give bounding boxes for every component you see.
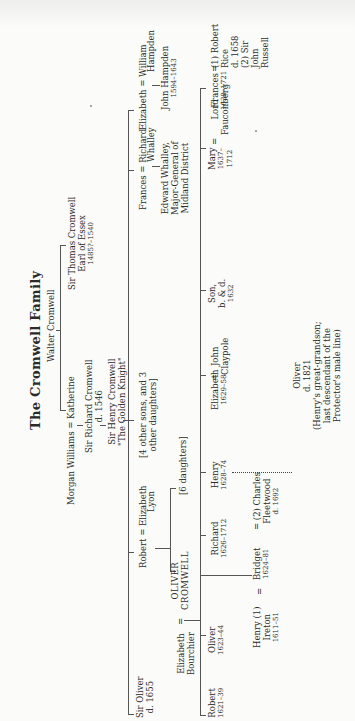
line: Major-General of [170, 141, 180, 215]
child-mary: Mary 1637– 1712 [207, 147, 234, 170]
line: (2) Sir [240, 24, 250, 68]
line: Claypole [220, 338, 230, 375]
title: Earl of Essex [77, 197, 87, 290]
connector [128, 170, 134, 171]
line: CROMWELL [180, 551, 190, 610]
name: Robert [138, 539, 148, 568]
child-richard: Richard 1626–1712 [210, 519, 229, 558]
line: John [250, 24, 260, 68]
child-son: Son, b. & d. 1632 [207, 279, 236, 308]
name: Son, [207, 279, 217, 308]
child-frances: Frances 1638–1721 [210, 71, 229, 110]
line: Elizabeth [176, 632, 186, 675]
line: = (2) Charles [252, 472, 262, 530]
name: Richard [210, 519, 220, 558]
connector [128, 420, 134, 421]
child-oliver: Oliver 1623–44 [207, 625, 226, 655]
connector [206, 575, 252, 576]
line: other daughters] [148, 372, 158, 458]
dates: 1629–58 [220, 369, 229, 410]
spouse-surname: Lyon [146, 491, 156, 512]
connector [200, 88, 206, 89]
child-henry: Henry 1628–74 [210, 460, 229, 490]
scan-speck [255, 130, 257, 132]
person-walter-cromwell: Walter Cromwell [46, 290, 56, 362]
connector [200, 375, 206, 376]
line: Edward Whalley, [160, 141, 170, 215]
name: Sir Thomas Cromwell [67, 197, 77, 290]
connector [200, 472, 206, 473]
dates: 1594–1643 [170, 46, 179, 110]
name: Sir Henry Cromwell [107, 357, 117, 446]
name: Oliver [207, 625, 217, 655]
line: Fleetwood [262, 472, 272, 530]
connector [200, 635, 206, 636]
dates: d. 1655 [145, 676, 155, 718]
equals-sign: = [255, 588, 265, 595]
note: (Henry's great-grandson; [312, 321, 322, 430]
dates: d. 1546 [94, 360, 104, 453]
name: Henry [210, 460, 220, 490]
person-edward-whalley: Edward Whalley, Major-General of Midland… [160, 141, 190, 215]
equals-sign: = [176, 618, 186, 625]
connector [128, 110, 134, 111]
line: (1) Robert [210, 24, 220, 68]
line: Bourchier [186, 632, 196, 675]
line: OLIVER [170, 551, 180, 610]
scan-edge [0, 0, 355, 28]
name: Robert [207, 688, 217, 718]
connector [128, 714, 134, 715]
name: Sir Richard Cromwell [84, 360, 94, 453]
connector [200, 715, 206, 716]
person-oliver-cromwell: OLIVER CROMWELL [170, 551, 190, 610]
spouse-surname: Whalley [146, 127, 156, 162]
line: John [210, 338, 220, 375]
name: Elizabeth [138, 89, 148, 130]
connector [100, 425, 106, 426]
dates: 1638–1721 [220, 71, 229, 110]
dates: 1637– [217, 147, 226, 170]
equals-sign: = [138, 529, 148, 536]
line: 1611–51 [272, 606, 281, 648]
dates: 1624–81 [262, 548, 271, 580]
person-katherine: Morgan Williams = Katherine [66, 376, 76, 505]
connector [128, 110, 129, 715]
connector [200, 88, 201, 716]
line: d. 1692 [272, 472, 281, 530]
equals-sign: = [138, 166, 148, 173]
person-sir-thomas-cromwell: Sir Thomas Cromwell Earl of Essex 1485?–… [67, 197, 96, 290]
connector [170, 488, 176, 489]
person-john-hampden: John Hampden 1594–1643 [160, 46, 179, 110]
connector [152, 166, 160, 167]
line: Ireton [262, 606, 272, 648]
scan-speck [90, 105, 92, 107]
dates: 1626–1712 [220, 519, 229, 558]
connector [184, 620, 200, 621]
connector [152, 85, 160, 86]
connector [60, 245, 61, 411]
page-title: The Cromwell Family [28, 271, 43, 430]
line: Midland District [180, 141, 190, 215]
connector [128, 552, 134, 553]
person-sir-oliver: Sir Oliver d. 1655 [135, 676, 155, 718]
child-bridget: Bridget 1624–81 [252, 548, 271, 580]
dates: 1712 [226, 147, 235, 170]
dates: 1485?–1540 [87, 197, 96, 290]
connector [155, 548, 171, 549]
name: Frances [210, 71, 220, 110]
name: Mary [207, 147, 217, 170]
line: [4 other sons, and 3 [138, 372, 148, 458]
dates: d. 1821 [302, 321, 312, 430]
other-siblings-note: [4 other sons, and 3 other daughters] [138, 372, 158, 458]
line: Russell [260, 24, 270, 68]
person-sir-richard-cromwell: Sir Richard Cromwell d. 1546 [84, 360, 104, 453]
note: last descendant of the [322, 321, 332, 430]
person-john-claypole: John Claypole [210, 338, 230, 375]
person-frances-spouses: (1) Robert Rice d. 1658 (2) Sir John Rus… [210, 24, 270, 68]
person-henry-ireton: Henry (1) Ireton 1611–51 [252, 606, 281, 648]
connector [200, 290, 206, 291]
connector [77, 425, 83, 426]
line: Rice [220, 24, 230, 68]
connector [200, 148, 206, 149]
dates: 1632 [227, 279, 236, 308]
